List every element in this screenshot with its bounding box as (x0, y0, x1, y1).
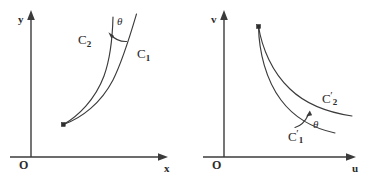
right-panel-v-axis-label: v (211, 14, 217, 25)
left-panel-origin-label: O (19, 159, 28, 171)
right-panel-curve-c2-prime (259, 27, 353, 117)
right-panel-intersection-dot (257, 25, 261, 29)
right-panel-curve-c1-prime-label: C′1 (288, 128, 303, 145)
left-panel-curve-c2-label-base: C (78, 32, 87, 47)
left-panel-curve-c1-label-base: C (137, 46, 146, 61)
left-panel-theta-label: θ (117, 16, 122, 27)
right-panel-origin-label: O (212, 159, 221, 171)
left-panel-y-axis-label: y (18, 14, 24, 25)
right-panel-u-axis-arrowhead (346, 153, 356, 161)
left-panel-curve-c2-label-sub: 2 (87, 39, 92, 49)
right-panel-curve-c1-prime-label-sub: 1 (299, 135, 304, 145)
right-panel-v-axis-arrowhead (220, 10, 228, 20)
left-panel-x-axis-label: x (164, 163, 170, 174)
right-panel-theta-label: θ (313, 119, 318, 130)
left-panel-intersection-dot (61, 123, 65, 127)
left-panel-curve-c1-label: C1 (137, 47, 150, 63)
left-panel-curve-c1-label-sub: 1 (146, 53, 151, 63)
left-panel-curve-c2-label: C2 (78, 33, 91, 49)
right-panel-angle-arrow-head (306, 111, 312, 117)
right-panel-group (203, 10, 356, 161)
right-panel-u-axis-label: u (352, 163, 358, 174)
figure-canvas: y x O C2 C1 θ v u O C′2 C′1 θ (0, 0, 386, 181)
right-panel-curve-c2-prime-label-sub: 2 (333, 97, 338, 107)
right-panel-curve-c2-prime-label: C′2 (322, 90, 337, 107)
right-panel-curve-c1-prime (259, 27, 336, 134)
left-panel-curve-c1 (64, 14, 137, 125)
left-panel-y-axis-arrowhead (27, 10, 35, 20)
left-panel-x-axis-arrowhead (158, 153, 168, 161)
